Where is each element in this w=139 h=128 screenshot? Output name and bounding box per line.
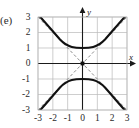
y-axis-arrow: [80, 7, 86, 13]
x-tick-label-1: 1: [91, 114, 103, 124]
origin-point-marker: [81, 62, 85, 66]
x-tick-label-neg3: -3: [30, 114, 46, 124]
x-tick-label-neg2: -2: [45, 114, 61, 124]
x-axis-label: x: [129, 53, 133, 62]
x-tick-label-0: 0: [77, 114, 89, 124]
x-tick-label-3: 3: [121, 114, 133, 124]
x-tick-label-neg1: -1: [60, 114, 76, 124]
y-tick-label-1: 1: [22, 44, 34, 54]
y-tick-label-3: 3: [22, 13, 34, 23]
y-tick-label-2: 2: [22, 28, 34, 38]
y-axis-label: y: [87, 8, 91, 17]
y-tick-label-neg1: -1: [18, 75, 34, 85]
y-tick-label-0: 0: [22, 59, 34, 69]
x-tick-label-2: 2: [106, 114, 118, 124]
y-tick-label-neg2: -2: [18, 90, 34, 100]
